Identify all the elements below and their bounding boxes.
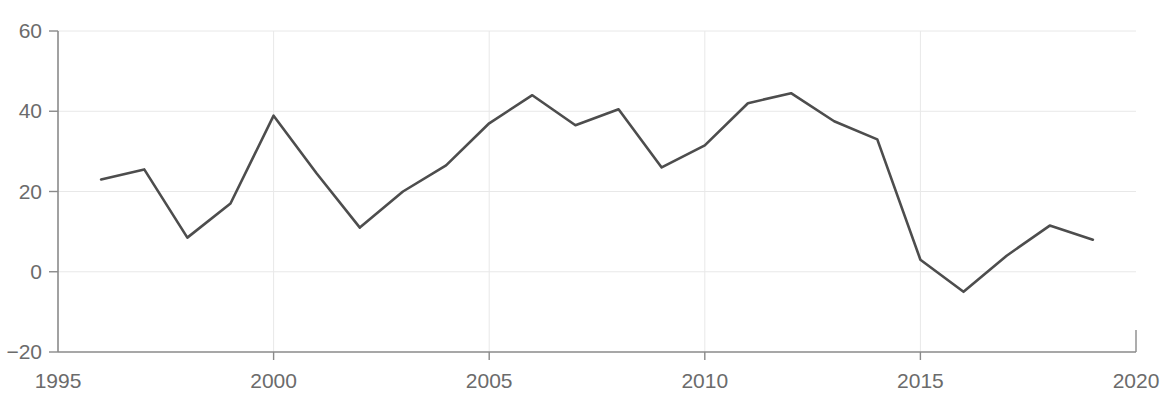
- x-axis-tick-labels: 199520002005201020152020: [35, 369, 1160, 392]
- x-tick-label: 2000: [250, 369, 297, 392]
- y-tick-label: 60: [19, 19, 42, 42]
- x-tick-label: 1995: [35, 369, 82, 392]
- x-tick-label: 2005: [466, 369, 513, 392]
- y-tick-label: 0: [30, 260, 42, 283]
- x-tick-label: 2015: [897, 369, 944, 392]
- x-tick-label: 2010: [681, 369, 728, 392]
- chart-canvas: −200204060 199520002005201020152020: [0, 0, 1165, 404]
- y-tick-label: 40: [19, 99, 42, 122]
- grid-lines: [58, 31, 1136, 272]
- y-axis-tick-labels: −200204060: [6, 19, 42, 363]
- x-axis-ticks: [274, 352, 921, 360]
- x-tick-label: 2020: [1113, 369, 1160, 392]
- y-tick-label: −20: [6, 340, 42, 363]
- y-axis-ticks: [49, 31, 58, 352]
- y-tick-label: 20: [19, 180, 42, 203]
- line-chart: −200204060 199520002005201020152020: [0, 0, 1165, 404]
- data-series-line: [101, 93, 1093, 292]
